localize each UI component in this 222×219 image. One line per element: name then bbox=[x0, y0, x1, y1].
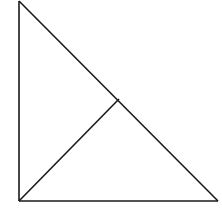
altitude bbox=[19, 99, 119, 201]
right-triangle-diagram bbox=[0, 0, 222, 219]
